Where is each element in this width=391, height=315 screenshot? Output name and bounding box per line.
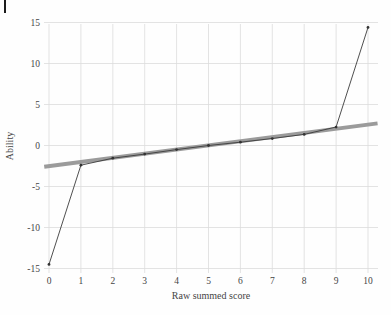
y-tick-labels: 151050-5-10-15 bbox=[27, 18, 40, 274]
series-ml-marker bbox=[48, 263, 51, 266]
y-tick-label: 10 bbox=[31, 59, 41, 69]
x-tick-label: 4 bbox=[174, 276, 179, 286]
y-axis-title: Ability bbox=[4, 132, 15, 160]
y-tick-label: -10 bbox=[27, 223, 40, 233]
page: 012345678910 151050-5-10-15 Ability Raw … bbox=[0, 0, 391, 315]
y-tick-label: 15 bbox=[31, 18, 41, 28]
y-tick-label: -15 bbox=[27, 264, 40, 274]
series-ml-marker bbox=[335, 126, 338, 129]
series-ml-marker bbox=[271, 137, 274, 140]
x-tick-labels: 012345678910 bbox=[47, 276, 373, 286]
x-tick-label: 1 bbox=[79, 276, 84, 286]
x-tick-label: 6 bbox=[238, 276, 243, 286]
y-tick-label: -5 bbox=[32, 182, 40, 192]
series-ml-marker bbox=[175, 148, 178, 151]
series-ml-marker bbox=[367, 26, 370, 29]
x-tick-label: 0 bbox=[47, 276, 52, 286]
x-tick-label: 5 bbox=[206, 276, 211, 286]
x-tick-label: 7 bbox=[270, 276, 275, 286]
y-tick-label: 0 bbox=[35, 141, 40, 151]
x-axis-title: Raw summed score bbox=[172, 290, 251, 301]
x-tick-label: 9 bbox=[334, 276, 339, 286]
series-ml-marker bbox=[111, 157, 114, 160]
x-tick-label: 8 bbox=[302, 276, 307, 286]
series-ml-marker bbox=[239, 141, 242, 144]
series-ml-marker bbox=[207, 144, 210, 147]
y-tick-label: 5 bbox=[35, 100, 40, 110]
gridlines bbox=[44, 23, 378, 274]
series-ml-marker bbox=[303, 133, 306, 136]
ability-score-chart: 012345678910 151050-5-10-15 Ability Raw … bbox=[0, 0, 391, 315]
series-ml-marker bbox=[143, 153, 146, 156]
series-ml-marker bbox=[80, 164, 83, 167]
x-tick-label: 2 bbox=[110, 276, 115, 286]
x-tick-label: 10 bbox=[363, 276, 373, 286]
x-tick-label: 3 bbox=[142, 276, 147, 286]
chart-svg: 012345678910 151050-5-10-15 Ability Raw … bbox=[0, 0, 391, 315]
